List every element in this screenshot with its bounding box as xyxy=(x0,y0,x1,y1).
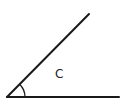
angle-diagram: C xyxy=(0,0,125,106)
angle-arc xyxy=(20,84,25,97)
angle-label: C xyxy=(55,67,63,81)
